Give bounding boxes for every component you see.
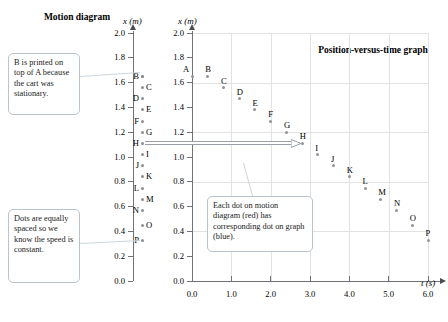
correspondence-arrow-head (291, 138, 302, 149)
correspondence-arrow-shaft (145, 141, 291, 145)
figure-root: Motion diagram x (m) 2.01.81.61.41.21.00… (0, 0, 448, 322)
correspondence-arrow (0, 0, 448, 322)
